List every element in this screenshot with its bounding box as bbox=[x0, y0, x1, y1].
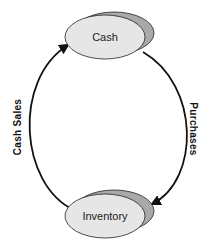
purchases-label: Purchases bbox=[188, 102, 199, 155]
cash-node-label: Cash bbox=[92, 31, 118, 43]
cash-cycle-diagram: Cash Inventory Cash Sales Purchases bbox=[0, 0, 207, 248]
cash-node: Cash bbox=[65, 12, 154, 59]
purchases-arrow bbox=[143, 52, 187, 204]
cash-sales-arrow bbox=[30, 45, 74, 210]
inventory-node: Inventory bbox=[65, 190, 154, 238]
cash-sales-label: Cash Sales bbox=[12, 99, 23, 156]
inventory-node-label: Inventory bbox=[82, 210, 128, 222]
